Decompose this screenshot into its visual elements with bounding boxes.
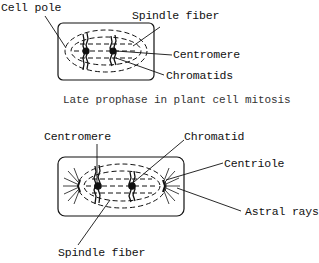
centromere-bottom-left [95,183,101,189]
centromere-bottom-right [129,183,135,189]
leader-bottom-spindle-fiber [78,200,110,245]
leader-chromatids [116,58,164,75]
leader-spindle-fiber [133,27,160,46]
label-astral-rays: Astral rays [245,206,319,218]
astral-rays-left [63,168,79,204]
centriole-left [78,180,80,192]
label-spindle-fiber-top: Spindle fiber [132,10,219,22]
leader-bottom-chromatid [134,140,184,182]
label-centromere-bottom: Centromere [44,131,111,143]
astral-rays-right [164,168,180,204]
centromere-left [83,48,89,54]
animal-cell-figure [58,140,241,245]
label-chromatids-top: Chromatids [166,70,233,82]
label-cell-pole: Cell pole [1,2,61,14]
plant-cell-figure [45,16,172,80]
leader-centromere [116,51,172,55]
caption-late-prophase: Late prophase in plant cell mitosis [63,94,291,106]
leader-astral-rays [177,188,241,211]
label-chromatid-bottom: Chromatid [184,131,244,143]
spindle-fibers [65,30,147,72]
label-centriole: Centriole [224,158,284,170]
spindle-fibers-bottom [78,164,166,208]
label-spindle-fiber-bottom: Spindle fiber [58,247,145,259]
centromere-right [110,48,116,54]
leader-cell-pole [45,16,66,48]
label-centromere-top: Centromere [173,49,240,61]
